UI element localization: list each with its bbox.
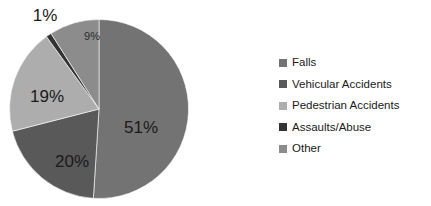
legend-swatch-icon [279,80,287,88]
legend-item-label: Pedestrian Accidents [292,100,399,112]
legend-item[interactable]: Vehicular Accidents [279,74,429,96]
legend-swatch-icon [279,102,287,110]
legend-swatch-icon [279,59,287,67]
pie-slice-data-label: 19% [30,87,64,106]
pie-slice-data-label: 20% [55,152,89,171]
pie-slice-data-label: 1% [33,6,58,25]
legend-item-label: Falls [292,57,316,69]
legend-swatch-icon [279,123,287,131]
legend-item[interactable]: Pedestrian Accidents [279,95,429,117]
pie-plot-area: 51%20%19%1%9% [0,0,270,206]
legend-swatch-icon [279,145,287,153]
pie-svg: 51%20%19%1%9% [0,0,270,206]
pie-slice[interactable] [93,19,188,198]
legend-item[interactable]: Other [279,138,429,160]
legend-item-label: Vehicular Accidents [292,79,392,91]
chart-legend: FallsVehicular AccidentsPedestrian Accid… [279,52,429,160]
legend-item-label: Other [292,143,321,155]
legend-item[interactable]: Assaults/Abuse [279,117,429,139]
legend-item[interactable]: Falls [279,52,429,74]
pie-slice-data-label: 51% [124,118,158,137]
legend-item-label: Assaults/Abuse [292,122,371,134]
pie-slice-data-label: 9% [84,30,100,42]
pie-chart-figure: 51%20%19%1%9% FallsVehicular AccidentsPe… [0,0,431,206]
pie-slice-group [9,19,188,198]
